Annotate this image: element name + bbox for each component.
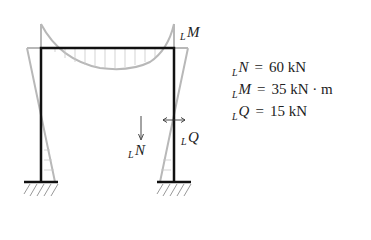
normal-label: L N xyxy=(127,142,146,160)
moment-label: L M xyxy=(179,24,201,42)
fixed-support-right xyxy=(157,182,191,196)
svg-text:L: L xyxy=(180,136,187,147)
svg-text:L: L xyxy=(179,31,186,42)
result-shear-force: LQ=15 kN xyxy=(232,101,333,123)
svg-text:M: M xyxy=(186,24,201,40)
normal-force-arrow xyxy=(139,116,144,140)
svg-text:N: N xyxy=(134,142,146,158)
results-list: LN=60 kN LM=35 kN · m LQ=15 kN xyxy=(232,57,333,123)
fixed-support-left xyxy=(24,182,58,196)
result-normal-force: LN=60 kN xyxy=(232,57,333,79)
svg-text:Q: Q xyxy=(188,129,199,145)
svg-text:L: L xyxy=(127,149,134,160)
result-moment: LM=35 kN · m xyxy=(232,79,333,101)
moment-hatch xyxy=(44,48,171,170)
shear-label: L Q xyxy=(180,129,199,147)
